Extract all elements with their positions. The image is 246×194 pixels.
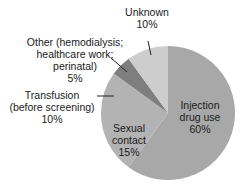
- label-other-line2: healthcare work;: [20, 48, 130, 60]
- label-other-line1: Other (hemodialysis;: [20, 36, 130, 48]
- label-other: Other (hemodialysis; healthcare work; pe…: [20, 36, 130, 84]
- label-unknown-pct: 10%: [122, 18, 172, 30]
- label-other-line3: perinatal): [20, 60, 130, 72]
- label-injection-line2: drug use: [170, 111, 230, 123]
- label-injection-line1: Injection: [170, 99, 230, 111]
- label-transfusion: Transfusion (before screening) 10%: [0, 89, 104, 125]
- label-unknown: Unknown 10%: [122, 6, 172, 30]
- label-injection: Injection drug use 60%: [170, 99, 230, 135]
- label-transfusion-line1: Transfusion: [0, 89, 104, 101]
- label-injection-pct: 60%: [170, 123, 230, 135]
- label-transfusion-pct: 10%: [0, 113, 104, 125]
- label-sexual-pct: 15%: [104, 146, 154, 158]
- label-sexual-line1: Sexual: [104, 122, 154, 134]
- label-transfusion-line2: (before screening): [0, 101, 104, 113]
- label-other-pct: 5%: [20, 72, 130, 84]
- label-unknown-text: Unknown: [122, 6, 172, 18]
- label-sexual: Sexual contact 15%: [104, 122, 154, 158]
- label-sexual-line2: contact: [104, 134, 154, 146]
